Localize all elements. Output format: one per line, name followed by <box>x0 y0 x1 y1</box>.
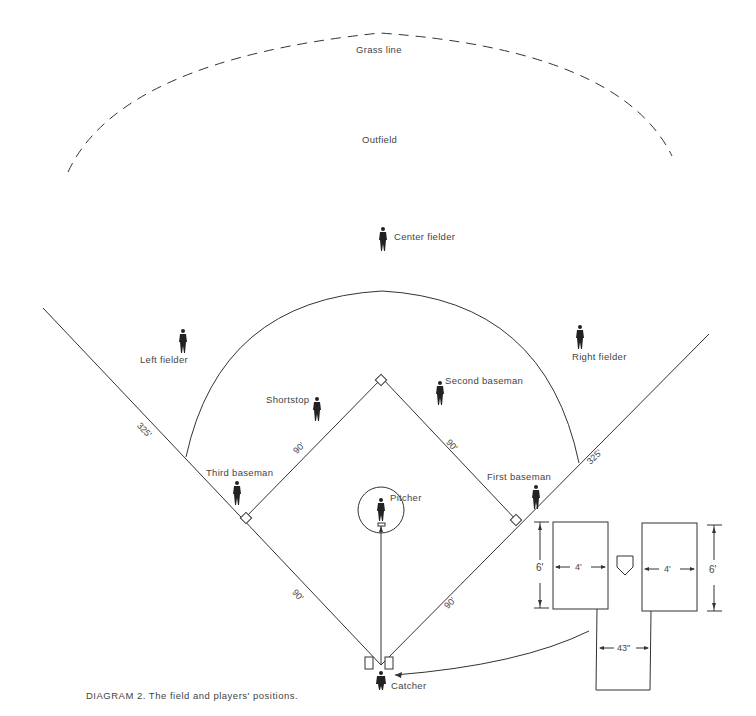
catchers-box-width: 43" <box>617 643 630 653</box>
right-foul-line <box>381 334 709 665</box>
left-foul-line <box>43 308 381 665</box>
left-fielder-label: Left fielder <box>140 354 188 365</box>
pitch-arrowhead <box>379 526 383 532</box>
third-baseman-icon <box>233 481 241 505</box>
catcher-icon <box>376 671 386 690</box>
left-box-length: 6' <box>536 562 543 573</box>
second-base <box>375 374 386 385</box>
home-batters-box-right <box>385 657 393 669</box>
inset-home-plate <box>617 556 633 575</box>
second-baseman-icon <box>436 381 444 405</box>
third-baseman-label: Third baseman <box>206 467 273 478</box>
second-baseman-label: Second baseman <box>445 375 523 386</box>
right-fielder-label: Right fielder <box>572 351 627 362</box>
field-diagram <box>0 0 756 716</box>
catcher-label: Catcher <box>391 680 426 691</box>
outfield-label: Outfield <box>362 134 397 145</box>
pitchers-rubber <box>378 523 385 526</box>
shortstop-label: Shortstop <box>266 394 309 405</box>
center-fielder-label: Center fielder <box>394 231 455 242</box>
home-batters-box-left <box>365 657 373 669</box>
left-box-width: 4' <box>575 562 582 572</box>
center-fielder-icon <box>379 227 387 251</box>
pitcher-icon <box>377 498 385 521</box>
first-baseman-label: First baseman <box>487 471 551 482</box>
diagram-caption: DIAGRAM 2. The field and players' positi… <box>86 690 298 701</box>
right-fielder-icon <box>576 325 584 349</box>
pitcher-label: Pitcher <box>390 492 422 503</box>
shortstop-icon <box>313 397 321 421</box>
left-fielder-icon <box>179 329 187 353</box>
callout-curve <box>395 631 589 675</box>
third-base <box>240 512 251 523</box>
right-box-width: 4' <box>664 564 671 574</box>
right-box-length: 6' <box>709 564 716 575</box>
grass-line-label: Grass line <box>356 44 402 55</box>
